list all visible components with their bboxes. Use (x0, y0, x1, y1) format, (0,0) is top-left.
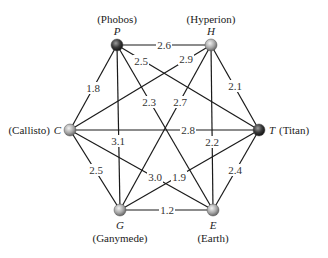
node-name-label: (Titan) (279, 124, 309, 137)
edge-weight-label: 2.5 (134, 55, 148, 67)
node-H (205, 39, 217, 51)
edge-weight-label: 2.5 (89, 164, 103, 176)
node-letter-label: E (209, 219, 217, 231)
node-letter-label: H (206, 25, 216, 37)
edge-P-G (117, 45, 120, 210)
edge-weight-label: 2.4 (228, 164, 242, 176)
node-C (64, 124, 76, 136)
node-name-label: (Callisto) (8, 124, 50, 137)
edge-weight-label: 2.8 (181, 124, 195, 136)
edge-weight-label: 3.0 (148, 171, 162, 183)
edges-layer (70, 45, 259, 210)
edge-weight-label: 2.2 (205, 136, 219, 148)
edge-H-G (120, 45, 211, 210)
edge-weight-label: 2.6 (157, 39, 171, 51)
edge-H-E (211, 45, 213, 210)
edge-weight-label: 2.1 (228, 80, 242, 92)
edge-weight-label: 1.9 (172, 171, 186, 183)
node-P (111, 39, 123, 51)
edge-weight-label: 1.8 (86, 82, 100, 94)
node-G (114, 204, 126, 216)
edge-labels-layer: 2.61.83.12.32.52.92.72.22.12.82.53.01.91… (85, 39, 243, 216)
edge-weight-label: 2.7 (173, 96, 187, 108)
edge-weight-label: 2.3 (142, 96, 156, 108)
node-letter-label: C (54, 124, 62, 136)
node-letter-label: T (269, 124, 276, 136)
graph-diagram: 2.61.83.12.32.52.92.72.22.12.82.53.01.91… (0, 0, 328, 258)
edge-weight-label: 2.9 (179, 53, 193, 65)
edge-weight-label: 3.1 (111, 135, 125, 147)
node-letter-label: P (113, 25, 121, 37)
node-E (207, 204, 219, 216)
node-name-label: (Ganymede) (93, 232, 148, 245)
node-letter-label: G (116, 219, 124, 231)
node-name-label: (Earth) (197, 232, 228, 245)
node-T (253, 124, 265, 136)
edge-weight-label: 1.2 (160, 204, 174, 216)
